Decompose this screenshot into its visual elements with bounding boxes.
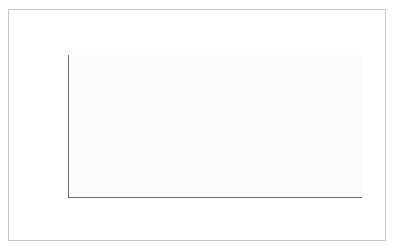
x-axis-line: [68, 197, 362, 198]
x-axis-labels: [68, 202, 362, 242]
bar-series-container: [68, 55, 362, 197]
legend-item-other-soviet[interactable]: [177, 32, 186, 38]
plot-area: [68, 55, 362, 197]
legend-swatch-other-soviet: [177, 32, 183, 38]
chart-frame: [8, 9, 386, 241]
chart-legend: [9, 32, 385, 38]
legend-swatch-ukraine: [208, 32, 214, 38]
legend-item-ukraine[interactable]: [208, 32, 217, 38]
